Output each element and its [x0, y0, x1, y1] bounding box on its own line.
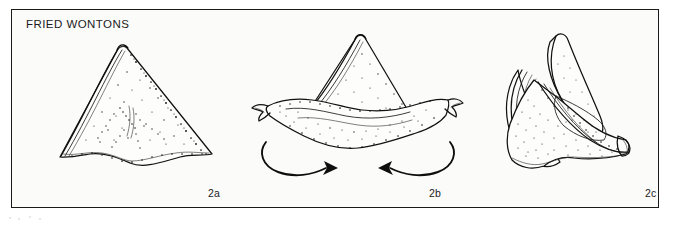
wonton-wings-drawing	[250, 30, 465, 180]
step-label-2c: 2c	[645, 187, 657, 199]
scan-artifact	[6, 214, 50, 223]
wonton-finished-drawing	[478, 30, 658, 180]
illustration-step-2c	[478, 30, 658, 180]
fold-arrow-right	[378, 142, 454, 175]
illustration-step-2a	[32, 30, 237, 180]
step-label-2b: 2b	[429, 187, 441, 199]
figure-frame: FRIED WONTONS	[11, 9, 659, 208]
fold-arrow-left	[262, 142, 338, 175]
illustration-step-2b	[250, 30, 465, 180]
figure-root: FRIED WONTONS	[0, 0, 674, 230]
page-title: FRIED WONTONS	[26, 18, 129, 30]
wonton-triangle-drawing	[32, 30, 237, 180]
step-label-2a: 2a	[208, 187, 220, 199]
